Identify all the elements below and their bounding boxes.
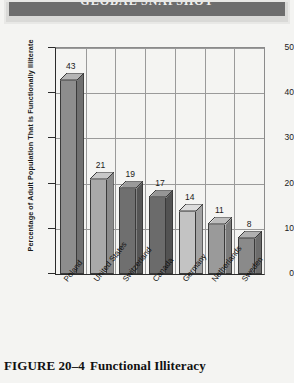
y-axis-tick-mark	[48, 92, 55, 93]
bar-value-label: 11	[199, 205, 239, 215]
banner-title: GLOBAL SNAPSHOT	[9, 0, 285, 9]
y-axis-tick-label: 20	[268, 178, 294, 188]
banner-inner: GLOBAL SNAPSHOT	[9, 0, 285, 16]
y-axis-tick-label: 30	[268, 132, 294, 142]
gridline-vertical	[234, 48, 235, 274]
bar-front-face	[60, 80, 77, 274]
figure-number: FIGURE 20–4	[4, 358, 85, 373]
bar-value-label: 14	[170, 192, 210, 202]
y-axis-tick-label: 10	[268, 223, 294, 233]
global-snapshot-banner: GLOBAL SNAPSHOT	[4, 0, 290, 24]
y-axis-tick-mark	[48, 228, 55, 229]
bar-value-label: 8	[229, 219, 269, 229]
figure-title: Functional Illiteracy	[90, 358, 206, 373]
y-axis-tick-mark	[48, 47, 55, 48]
bar-chart: Percentage of Adult Population That Is F…	[0, 26, 294, 351]
y-axis-title: Percentage of Adult Population That Is F…	[26, 21, 35, 271]
bar	[90, 179, 107, 274]
bar-front-face	[90, 179, 107, 274]
bar-side-face	[77, 73, 84, 274]
bar-value-label: 17	[140, 178, 180, 188]
gridline-vertical	[175, 48, 176, 274]
y-axis-tick-label: 0	[268, 268, 294, 278]
y-axis-tick-mark	[48, 137, 55, 138]
bar-value-label: 43	[51, 61, 91, 71]
gridline	[56, 138, 264, 139]
gridline-vertical	[145, 48, 146, 274]
y-axis-tick-label: 40	[268, 87, 294, 97]
bar	[60, 80, 77, 274]
gridline	[56, 93, 264, 94]
y-axis-tick-mark	[48, 183, 55, 184]
figure-caption: FIGURE 20–4Functional Illiteracy	[4, 358, 206, 374]
y-axis-tick-label: 50	[268, 42, 294, 52]
y-axis-tick-mark	[48, 273, 55, 274]
gridline-vertical	[205, 48, 206, 274]
gridline	[56, 48, 264, 49]
